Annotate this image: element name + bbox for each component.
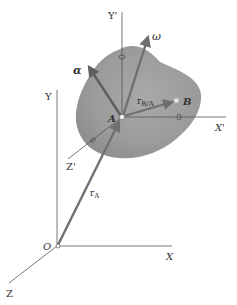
z-prime-label: Z'	[66, 161, 76, 172]
x-axis-label: X	[165, 251, 174, 262]
point-b-label: B	[182, 96, 191, 107]
point-a-label: A	[107, 113, 116, 124]
r-a-subscript: A	[93, 192, 100, 200]
z-axis-label: Z	[6, 288, 13, 299]
point-a-marker	[119, 114, 124, 119]
alpha-label: α	[73, 64, 82, 77]
origin-label: O	[43, 241, 51, 252]
y-prime-label: Y'	[107, 10, 117, 21]
origin-marker	[56, 244, 60, 248]
kinematics-diagram: Y' ω α Y A B rB/A X' Z' rA O X Z	[0, 0, 237, 305]
x-prime-label: X'	[214, 122, 225, 133]
point-b-marker	[175, 99, 179, 103]
omega-label: ω	[152, 30, 161, 43]
y-axis-label: Y	[44, 91, 52, 102]
r-a-label: rA	[90, 188, 100, 200]
r-ba-subscript: B/A	[141, 100, 155, 108]
